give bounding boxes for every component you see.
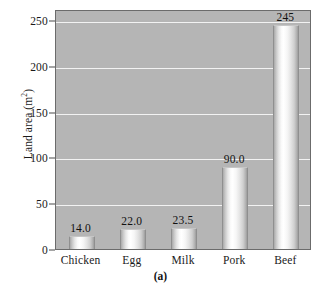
bar [222,167,248,249]
y-tick-label: 0 [14,244,48,256]
y-tick-label: 50 [14,198,48,210]
bar-value-label: 245 [276,11,294,23]
gridline [56,114,310,115]
gridline [56,68,310,69]
y-tick-label: 200 [14,61,48,73]
x-tick-label: Chicken [61,254,101,266]
bar-value-label: 90.0 [224,153,245,165]
bar-chart-figure: Land area (m2) 0 50 100 150 200 250 14.0… [0,0,321,293]
bar-value-label: 23.5 [173,214,194,226]
y-tick-label: 150 [14,107,48,119]
x-tick-label: Milk [171,254,194,266]
bar [69,236,95,249]
x-tick-label: Egg [122,254,141,266]
figure-caption: (a) [0,270,321,282]
bar-value-label: 22.0 [121,215,142,227]
bar [120,229,146,249]
y-tick-label: 250 [14,15,48,27]
gridline [56,205,310,206]
bar [273,25,299,249]
bar [171,228,197,250]
x-tick-label: Pork [223,254,246,266]
x-tick-label: Beef [274,254,297,266]
gridline [56,159,310,160]
y-tick-label: 100 [14,152,48,164]
gridline [56,22,310,23]
bar-value-label: 14.0 [70,222,91,234]
y-axis-tick-labels: 0 50 100 150 200 250 [14,0,48,293]
